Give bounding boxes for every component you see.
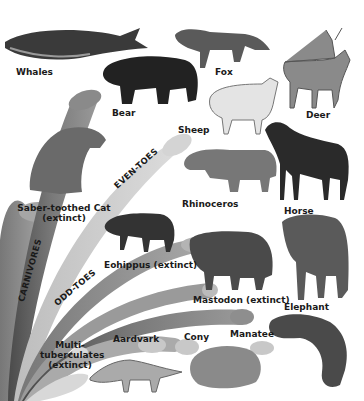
eohippus-figure [105,213,175,252]
label-mastodon: Mastodon (extinct) [193,295,290,305]
label-fox: Fox [215,67,233,77]
deer-figure [284,28,350,108]
elephant-figure [282,215,349,300]
label-saber-toothed-cat-name: Saber-toothed Cat [14,203,114,213]
label-deer: Deer [306,110,330,120]
label-elephant: Elephant [284,302,329,312]
label-aardvark: Aardvark [113,334,159,344]
rhinoceros-figure [184,149,277,192]
whale-figure [5,28,148,60]
label-multituberculates-line1: Multi- [40,340,100,350]
label-sheep: Sheep [178,125,210,135]
manatee-figure [269,314,347,387]
bear-figure [103,56,198,104]
label-bear: Bear [112,108,135,118]
label-manatee: Manatee [230,329,274,339]
sheep-figure [210,78,279,134]
label-multituberculates-line3: (extinct) [40,360,100,370]
mastodon-figure [190,231,273,290]
label-cony: Cony [184,332,209,342]
aardvark-figure [90,360,182,392]
horse-figure [265,122,349,200]
label-rhinoceros: Rhinoceros [182,199,238,209]
label-horse: Horse [284,206,314,216]
saber-cat-figure [30,127,106,194]
label-multituberculates-line2: tuberculates [40,350,100,360]
label-saber-toothed-cat: Saber-toothed Cat (extinct) [14,203,114,223]
cony-figure [190,346,261,388]
label-whales: Whales [16,67,53,77]
label-multituberculates: Multi- tuberculates (extinct) [40,340,100,370]
label-eohippus: Eohippus (extinct) [104,260,197,270]
label-saber-toothed-cat-note: (extinct) [14,213,114,223]
